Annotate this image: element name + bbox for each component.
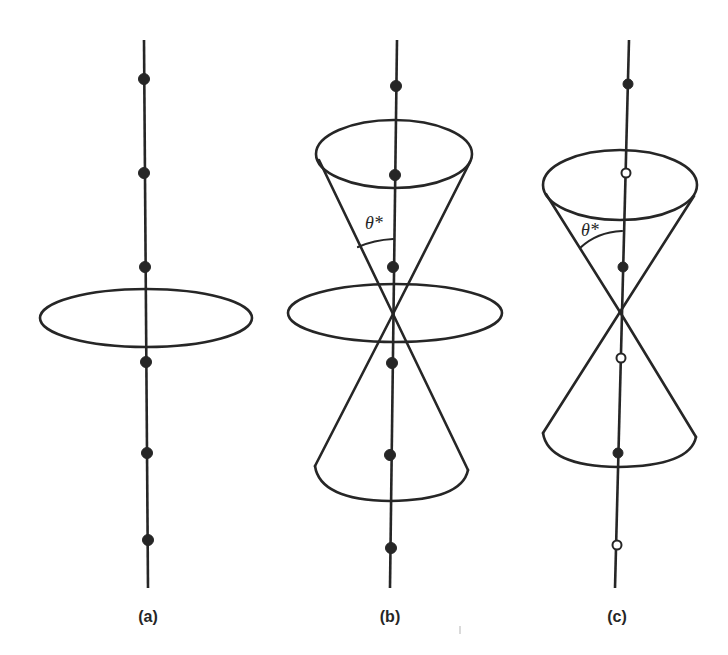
panel-c-point-2-open (622, 169, 631, 178)
panel-b-point-5 (385, 450, 396, 461)
panel-c-point-4-open (617, 354, 626, 363)
panel-b: θ* (b) (288, 40, 502, 634)
panel-b-point-4 (387, 358, 398, 369)
panel-c-lower-cone-left-edge (543, 312, 620, 433)
panel-a-label: (a) (138, 608, 158, 625)
panel-a-point-6 (143, 535, 154, 546)
panel-b-lower-cone-left-edge (315, 314, 393, 466)
panel-c-upper-cone-rim (543, 150, 697, 220)
panel-c-upper-cone-right-edge (620, 196, 694, 312)
panel-c-point-3 (618, 262, 628, 272)
panel-c-point-1 (623, 79, 633, 89)
panel-b-label: (b) (380, 608, 400, 625)
panel-b-theta-star-label: θ* (365, 213, 383, 233)
panel-a-point-2 (139, 168, 150, 179)
panel-a-axis (144, 40, 148, 588)
panel-c-axis (615, 40, 629, 588)
panel-c-label: (c) (607, 608, 627, 625)
panel-c-theta-star-label: θ* (581, 220, 599, 240)
panel-c: θ* (c) (543, 40, 697, 625)
panel-b-point-3 (388, 262, 399, 273)
panel-a-point-1 (139, 74, 150, 85)
cone-diagram-figure: (a) θ* (b) (0, 0, 728, 655)
panel-a-point-3 (140, 262, 151, 273)
panel-b-axis (390, 40, 397, 588)
panel-c-point-6-open (613, 541, 622, 550)
panel-c-point-5 (613, 448, 623, 458)
panel-a-point-5 (142, 448, 153, 459)
panel-a-point-4 (141, 357, 152, 368)
panel-b-point-1 (391, 81, 402, 92)
panel-c-upper-cone-left-edge (546, 194, 620, 312)
panel-c-lower-cone-right-edge (620, 312, 696, 437)
panel-b-angle-arc (358, 239, 393, 247)
panel-b-point-6 (386, 543, 397, 554)
panel-b-point-2 (390, 170, 401, 181)
panel-a: (a) (40, 40, 252, 625)
